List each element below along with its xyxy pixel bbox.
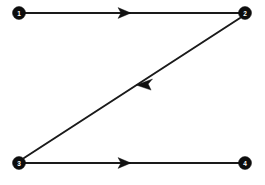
node-circle-4 xyxy=(239,157,252,170)
graph-node-4[interactable]: 4 xyxy=(239,157,252,170)
node-circle-3 xyxy=(13,157,26,170)
graph-canvas: 1 2 3 4 xyxy=(0,0,265,185)
graph-node-2[interactable]: 2 xyxy=(239,7,252,20)
node-circle-1 xyxy=(13,7,26,20)
graph-node-3[interactable]: 3 xyxy=(13,157,26,170)
edge-2-to-3[interactable] xyxy=(24,18,240,158)
edge-line-2-to-3 xyxy=(24,18,240,158)
edge-3-to-4[interactable] xyxy=(25,158,239,169)
edge-1-to-2[interactable] xyxy=(25,8,239,19)
graph-svg: 1 2 3 4 xyxy=(0,0,265,185)
node-circle-2 xyxy=(239,7,252,20)
graph-node-1[interactable]: 1 xyxy=(13,7,26,20)
